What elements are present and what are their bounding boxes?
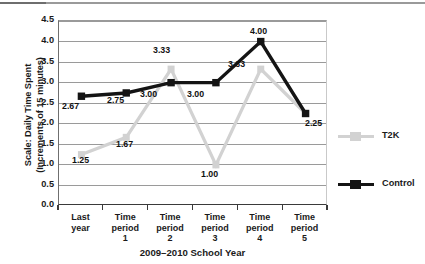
y-axis-tick-label: 1.5 (28, 139, 54, 148)
y-axis-tick-labels: 4.54.03.53.02.52.01.51.00.50.0 (26, 20, 54, 205)
top-divider-segment (0, 2, 46, 4)
series-marker (212, 161, 219, 168)
legend-marker-icon (350, 180, 361, 189)
y-axis-tick-label: 3.0 (28, 77, 54, 86)
series-marker (257, 38, 264, 45)
x-axis-category-line: period (282, 223, 328, 234)
x-axis-title: 2009–2010 School Year (58, 247, 327, 258)
x-axis-category-line: period (102, 223, 148, 234)
x-axis-category-label: Lastyear (57, 212, 103, 233)
y-axis-tick-label: 0.5 (28, 180, 54, 189)
x-axis-category-line: period (192, 223, 238, 234)
y-axis-tick-label: 2.0 (28, 118, 54, 127)
data-point-value-label: 1.25 (72, 156, 89, 165)
data-point-value-label: 1.67 (116, 140, 133, 149)
x-axis-category-line: Time (237, 212, 283, 223)
top-divider-rule (0, 2, 425, 4)
x-axis-category-label: Timeperiod4 (237, 212, 283, 244)
y-axis-tick-label: 3.5 (28, 57, 54, 66)
x-axis-category-line: Time (147, 212, 193, 223)
x-axis-category-line: Last (57, 212, 103, 223)
x-axis-tick-mark (102, 205, 103, 210)
x-axis-category-label: Timeperiod1 (102, 212, 148, 244)
x-axis-tick-mark (147, 205, 148, 210)
x-axis-category-label: Timeperiod3 (192, 212, 238, 244)
y-axis-tick-label: 4.5 (28, 15, 54, 24)
legend-label: Control (382, 178, 415, 189)
series-lines-layer (59, 21, 328, 206)
x-axis-category-line: 1 (102, 233, 148, 244)
series-marker (302, 110, 309, 117)
legend-marker-icon (350, 132, 361, 141)
legend-swatch-icon (338, 132, 374, 141)
x-axis-category-line: Time (282, 212, 328, 223)
series-marker (78, 93, 85, 100)
x-axis-category-label: Timeperiod2 (147, 212, 193, 244)
chart-legend: T2KControl (338, 128, 424, 194)
chart-figure: Scale: Daily Time Spent (Increments of 1… (0, 0, 425, 264)
x-axis-tick-mark (237, 205, 238, 210)
x-axis-category-line: 2 (147, 233, 193, 244)
data-point-value-label: 3.00 (140, 90, 157, 99)
y-axis-tick-label: 4.0 (28, 36, 54, 45)
x-axis-tick-mark (326, 205, 327, 210)
x-axis-category-line: 3 (192, 233, 238, 244)
x-axis-tick-mark (57, 205, 58, 210)
plot-area (58, 20, 327, 205)
series-marker (168, 66, 175, 73)
data-point-value-label: 2.75 (107, 96, 124, 105)
data-point-value-label: 4.00 (250, 27, 267, 36)
x-axis-category-line: 5 (282, 233, 328, 244)
series-marker (257, 66, 264, 73)
x-axis-category-line: Time (102, 212, 148, 223)
data-point-value-label: 2.67 (62, 102, 79, 111)
y-axis-tick-label: 0.0 (28, 200, 54, 209)
y-axis-tick-label: 1.0 (28, 159, 54, 168)
data-point-value-label: 3.33 (153, 46, 170, 55)
y-axis-tick-label: 2.5 (28, 98, 54, 107)
x-axis-category-line: 4 (237, 233, 283, 244)
data-point-value-label: 3.00 (187, 90, 204, 99)
legend-label: T2K (382, 130, 399, 141)
data-point-value-label: 1.00 (201, 170, 218, 179)
x-axis-category-line: year (57, 223, 103, 234)
x-axis-category-line: period (237, 223, 283, 234)
series-marker (167, 79, 174, 86)
x-axis-category-line: Time (192, 212, 238, 223)
x-axis-category-line: period (147, 223, 193, 234)
series-marker (212, 79, 219, 86)
x-axis-tick-mark (282, 205, 283, 210)
x-axis-tick-mark (192, 205, 193, 210)
legend-item-t2k[interactable]: T2K (338, 128, 424, 144)
data-point-value-label: 2.25 (305, 119, 322, 128)
legend-item-control[interactable]: Control (338, 176, 424, 192)
legend-swatch-icon (338, 180, 374, 189)
x-axis-category-label: Timeperiod5 (282, 212, 328, 244)
data-point-value-label: 3.33 (228, 60, 245, 69)
